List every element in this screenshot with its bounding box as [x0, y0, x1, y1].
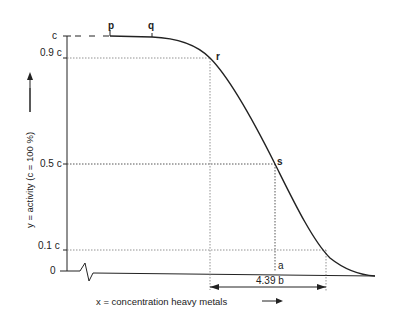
x-label-arrow-head [276, 298, 283, 304]
interval-label: 4.39 b [256, 276, 284, 286]
point-label-a: a [278, 261, 284, 271]
interval-arrow-right-head [317, 284, 326, 290]
tick-label-c: c [52, 31, 57, 41]
point-label-p: p [108, 21, 114, 31]
tick-label-0.9c: 0.9 c [40, 48, 62, 58]
x-axis-line [60, 263, 375, 281]
y-axis-label: y = activity (c = 100 %) [25, 132, 35, 228]
point-label-s: s [277, 157, 283, 167]
tick-label-0.5c: 0.5 c [40, 159, 62, 169]
interval-arrow-left-head [210, 284, 219, 290]
activity-curve [110, 36, 375, 276]
point-label-r: r [216, 52, 220, 62]
point-label-q: q [148, 21, 154, 31]
x-axis-label: x = concentration heavy metals [96, 297, 227, 307]
tick-label-0.1c: 0.1 c [38, 241, 60, 251]
tick-label-0: 0 [50, 266, 56, 276]
